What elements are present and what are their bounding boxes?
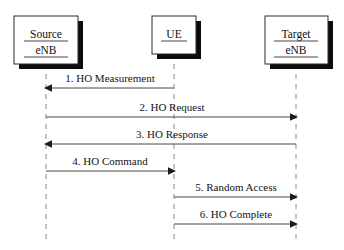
message-6-label: 6. HO Complete xyxy=(200,208,273,220)
message-1-label: 1. HO Measurement xyxy=(65,72,155,84)
message-6-ho-complete: 6. HO Complete xyxy=(174,208,298,228)
message-2-label: 2. HO Request xyxy=(139,101,204,113)
actor-source-enb: Source eNB xyxy=(14,16,83,69)
message-5-random-access: 5. Random Access xyxy=(174,181,298,201)
actor-source-label-line2: eNB xyxy=(35,44,56,56)
actor-target-enb: Target eNB xyxy=(265,16,333,69)
message-2-arrowhead xyxy=(290,113,298,121)
message-4-label: 4. HO Command xyxy=(72,155,148,167)
actor-target-label-line1: Target xyxy=(282,28,312,41)
actor-source-label-line1: Source xyxy=(30,28,62,40)
message-5-arrowhead xyxy=(290,193,298,201)
message-3-ho-response: 3. HO Response xyxy=(44,128,296,148)
message-4-arrowhead xyxy=(168,167,176,175)
message-3-arrowhead xyxy=(44,140,52,148)
message-3-label: 3. HO Response xyxy=(136,128,208,140)
sequence-diagram: Source eNB UE Target eNB 1. HO Measureme… xyxy=(0,0,344,250)
actor-target-label-line2: eNB xyxy=(285,44,306,56)
message-1-ho-measurement: 1. HO Measurement xyxy=(44,72,174,92)
message-5-label: 5. Random Access xyxy=(195,181,277,193)
actor-ue-label-line1: UE xyxy=(166,28,181,40)
message-2-ho-request: 2. HO Request xyxy=(46,101,298,121)
actor-ue: UE xyxy=(152,16,201,59)
message-6-arrowhead xyxy=(290,220,298,228)
message-1-arrowhead xyxy=(44,84,52,92)
message-4-ho-command: 4. HO Command xyxy=(46,155,176,175)
